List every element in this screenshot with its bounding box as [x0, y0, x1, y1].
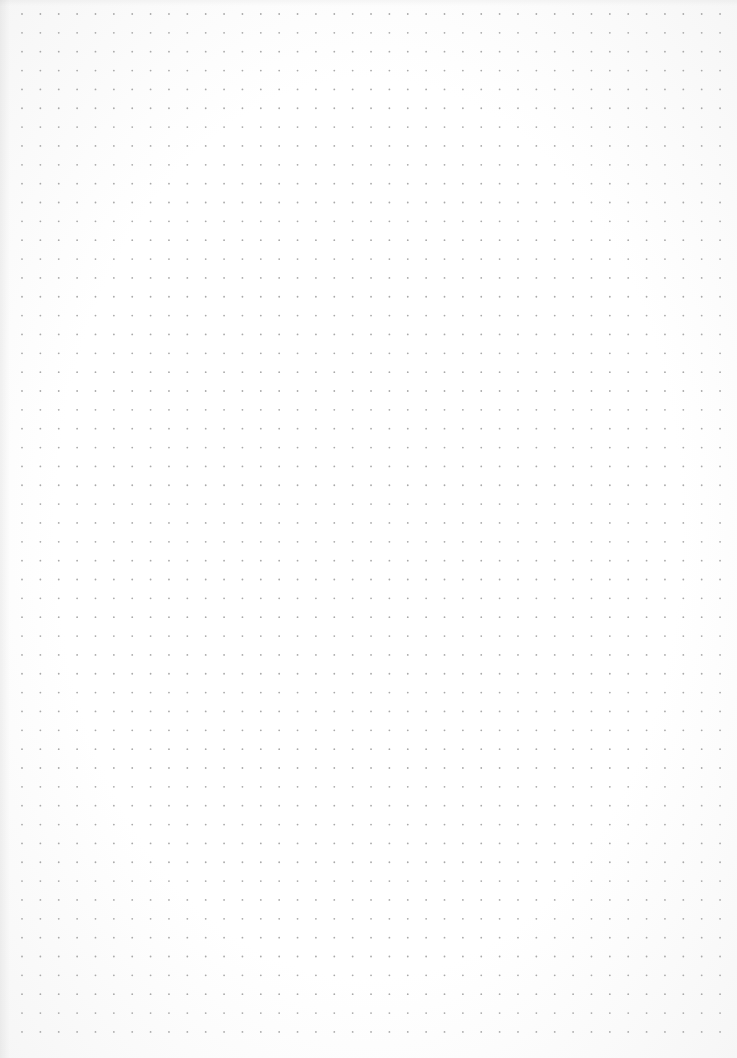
grid-dot	[278, 183, 280, 185]
grid-dot	[499, 447, 501, 449]
grid-dot	[76, 503, 78, 505]
grid-dot	[646, 107, 648, 109]
grid-dot	[186, 786, 188, 788]
grid-dot	[591, 748, 593, 750]
grid-dot	[517, 258, 519, 260]
grid-dot	[39, 993, 41, 995]
grid-dot	[168, 409, 170, 411]
grid-dot	[76, 145, 78, 147]
grid-dot	[333, 541, 335, 543]
grid-dot	[646, 428, 648, 430]
grid-dot	[113, 748, 115, 750]
grid-dot	[425, 409, 427, 411]
grid-dot	[278, 843, 280, 845]
grid-dot	[297, 729, 299, 731]
grid-dot	[223, 409, 225, 411]
grid-dot	[223, 202, 225, 204]
grid-dot	[352, 277, 354, 279]
grid-dot	[315, 428, 317, 430]
grid-dot	[444, 805, 446, 807]
grid-dot	[499, 654, 501, 656]
grid-dot	[572, 937, 574, 939]
grid-dot	[572, 880, 574, 882]
grid-dot	[186, 239, 188, 241]
grid-dot	[517, 974, 519, 976]
grid-dot	[297, 597, 299, 599]
grid-dot	[205, 880, 207, 882]
grid-dot	[39, 918, 41, 920]
grid-dot	[407, 541, 409, 543]
grid-dot	[389, 861, 391, 863]
grid-dot	[131, 296, 133, 298]
grid-dot	[682, 183, 684, 185]
grid-dot	[76, 767, 78, 769]
grid-dot	[682, 145, 684, 147]
grid-dot	[572, 13, 574, 15]
grid-dot	[95, 239, 97, 241]
grid-dot	[499, 1012, 501, 1014]
grid-dot	[646, 164, 648, 166]
grid-dot	[572, 692, 574, 694]
grid-dot	[58, 880, 60, 882]
grid-dot	[462, 13, 464, 15]
grid-dot	[591, 484, 593, 486]
grid-dot	[407, 918, 409, 920]
grid-dot	[517, 597, 519, 599]
grid-dot	[278, 503, 280, 505]
grid-dot	[462, 258, 464, 260]
grid-dot	[646, 145, 648, 147]
grid-dot	[517, 579, 519, 581]
grid-dot	[407, 993, 409, 995]
grid-dot	[462, 32, 464, 34]
grid-dot	[517, 145, 519, 147]
grid-dot	[223, 635, 225, 637]
grid-dot	[21, 352, 23, 354]
grid-dot	[352, 13, 354, 15]
grid-dot	[407, 635, 409, 637]
grid-dot	[333, 32, 335, 34]
grid-dot	[444, 993, 446, 995]
grid-dot	[701, 956, 703, 958]
grid-dot	[627, 974, 629, 976]
grid-dot	[719, 805, 721, 807]
grid-dot	[58, 616, 60, 618]
grid-dot	[719, 899, 721, 901]
grid-dot	[499, 296, 501, 298]
grid-dot	[21, 315, 23, 317]
grid-dot	[664, 729, 666, 731]
grid-dot	[444, 126, 446, 128]
grid-dot	[150, 51, 152, 53]
grid-dot	[425, 390, 427, 392]
grid-dot	[664, 824, 666, 826]
grid-dot	[315, 296, 317, 298]
grid-dot	[260, 484, 262, 486]
grid-dot	[682, 315, 684, 317]
grid-dot	[682, 126, 684, 128]
grid-dot	[333, 729, 335, 731]
grid-dot	[627, 277, 629, 279]
grid-dot	[517, 503, 519, 505]
grid-dot	[389, 616, 391, 618]
grid-dot	[535, 220, 537, 222]
grid-dot	[58, 1012, 60, 1014]
grid-dot	[389, 503, 391, 505]
grid-dot	[76, 861, 78, 863]
grid-dot	[131, 635, 133, 637]
grid-dot	[223, 786, 225, 788]
grid-dot	[480, 183, 482, 185]
grid-dot	[535, 466, 537, 468]
grid-dot	[444, 51, 446, 53]
grid-dot	[278, 371, 280, 373]
grid-dot	[186, 616, 188, 618]
grid-dot	[131, 861, 133, 863]
grid-dot	[609, 748, 611, 750]
grid-dot	[260, 824, 262, 826]
grid-dot	[425, 296, 427, 298]
grid-dot	[609, 918, 611, 920]
grid-dot	[701, 503, 703, 505]
grid-dot	[389, 560, 391, 562]
grid-dot	[389, 993, 391, 995]
grid-dot	[113, 126, 115, 128]
grid-dot	[591, 258, 593, 260]
grid-dot	[278, 89, 280, 91]
